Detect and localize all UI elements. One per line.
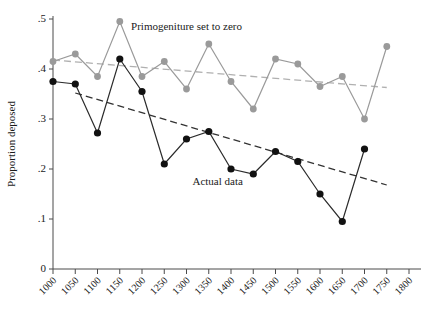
x-tick-label: 1100 <box>81 275 103 297</box>
data-point[interactable] <box>138 88 145 95</box>
x-tick-label: 1300 <box>170 275 192 297</box>
data-point[interactable] <box>49 78 56 85</box>
x-tick-label: 1450 <box>237 275 259 297</box>
y-tick-label: .5 <box>38 12 47 24</box>
data-point[interactable] <box>228 78 235 85</box>
y-tick-label: .2 <box>38 162 46 174</box>
data-point[interactable] <box>294 61 301 68</box>
x-tick-label: 1500 <box>259 275 281 297</box>
y-tick-label: .1 <box>38 212 46 224</box>
data-point[interactable] <box>383 43 390 50</box>
y-tick-label: 0 <box>41 262 47 274</box>
series-annotation: Actual data <box>192 175 243 187</box>
x-tick-label: 1550 <box>281 275 303 297</box>
series-annotation: Primogeniture set to zero <box>131 20 242 32</box>
x-tick-label: 1200 <box>125 275 147 297</box>
data-point[interactable] <box>339 73 346 80</box>
data-point[interactable] <box>205 41 212 48</box>
data-point[interactable] <box>250 106 257 113</box>
data-point[interactable] <box>272 56 279 63</box>
data-point[interactable] <box>94 129 101 136</box>
data-point[interactable] <box>205 128 212 135</box>
data-point[interactable] <box>361 116 368 123</box>
series-line <box>53 59 365 222</box>
data-point[interactable] <box>161 160 168 167</box>
chart-container: 0.1.2.3.4.510001050110011501200125013001… <box>0 0 435 318</box>
x-tick-label: 1000 <box>36 275 58 297</box>
data-point[interactable] <box>116 55 123 62</box>
x-tick-label: 1350 <box>192 275 214 297</box>
y-axis-title: Proportion deposed <box>5 101 17 187</box>
data-point[interactable] <box>317 83 324 90</box>
x-tick-label: 1150 <box>103 275 125 297</box>
x-tick-label: 1050 <box>59 275 81 297</box>
x-tick-label: 1650 <box>326 275 348 297</box>
data-point[interactable] <box>183 135 190 142</box>
data-point[interactable] <box>116 18 123 25</box>
x-tick-label: 1600 <box>303 275 325 297</box>
data-point[interactable] <box>94 73 101 80</box>
data-point[interactable] <box>316 190 323 197</box>
x-tick-label: 1400 <box>214 275 236 297</box>
data-point[interactable] <box>250 170 257 177</box>
x-tick-label: 1250 <box>148 275 170 297</box>
data-point[interactable] <box>294 158 301 165</box>
data-point[interactable] <box>72 51 79 58</box>
y-tick-label: .4 <box>38 62 47 74</box>
data-point[interactable] <box>272 148 279 155</box>
chart-svg: 0.1.2.3.4.510001050110011501200125013001… <box>0 0 435 318</box>
data-point[interactable] <box>50 58 57 65</box>
data-point[interactable] <box>339 218 346 225</box>
data-point[interactable] <box>361 145 368 152</box>
data-point[interactable] <box>72 80 79 87</box>
x-tick-label: 1700 <box>348 275 370 297</box>
x-tick-label: 1800 <box>392 275 414 297</box>
x-tick-label: 1750 <box>370 275 392 297</box>
data-point[interactable] <box>161 58 168 65</box>
series-line <box>53 22 387 120</box>
data-point[interactable] <box>139 73 146 80</box>
data-point[interactable] <box>183 86 190 93</box>
y-tick-label: .3 <box>38 112 47 124</box>
data-point[interactable] <box>227 165 234 172</box>
